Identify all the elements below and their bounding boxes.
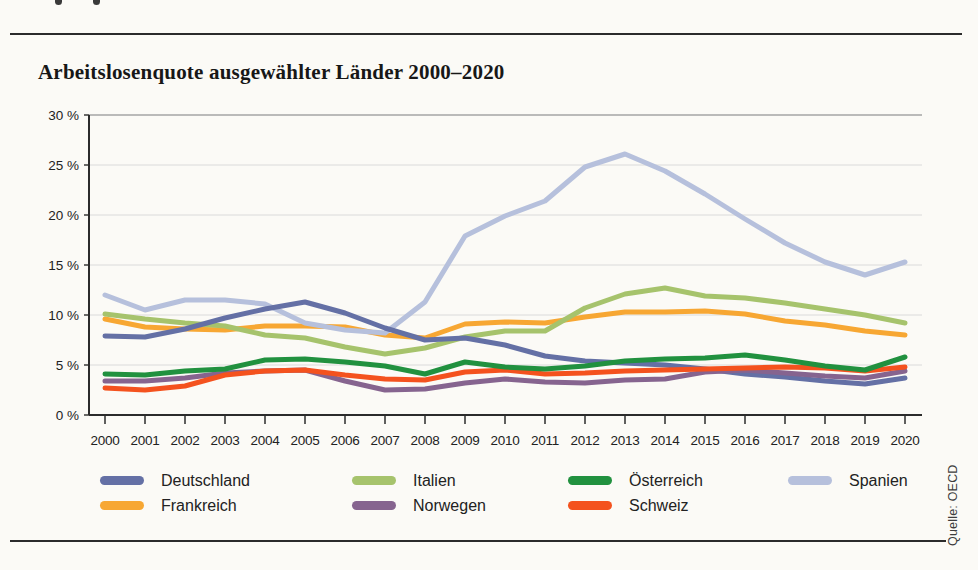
legend-item-norwegen: Norwegen [352,493,486,518]
legend-label: Frankreich [161,497,237,515]
legend-item-schweiz: Schweiz [568,493,703,518]
x-tick-label: 2001 [130,433,159,448]
x-tick-label: 2013 [610,433,639,448]
x-tick-label: 2003 [210,433,239,448]
legend-swatch [352,476,396,485]
x-tick-label: 2004 [250,433,280,448]
x-tick-label: 2011 [531,433,559,448]
y-tick-label: 20 % [48,208,79,223]
x-tick-label: 2014 [650,433,680,448]
chart-legend: DeutschlandFrankreichItalienNorwegenÖste… [0,468,978,532]
legend-item-italien: Italien [352,468,486,493]
legend-column: ÖsterreichSchweiz [568,468,703,518]
legend-label: Italien [413,472,456,490]
y-tick-label: 25 % [48,158,79,173]
x-tick-label: 2019 [850,433,879,448]
source-credit: Quelle: OECD [946,464,960,546]
x-tick-label: 2000 [90,433,119,448]
x-tick-label: 2002 [170,433,199,448]
legend-swatch [568,476,612,485]
legend-item-osterreich: Österreich [568,468,703,493]
y-tick-label: 5 % [56,358,79,373]
x-tick-label: 2016 [730,433,759,448]
x-tick-label: 2017 [770,433,799,448]
y-tick-label: 15 % [48,258,79,273]
legend-item-frankreich: Frankreich [100,493,250,518]
legend-swatch [568,501,612,510]
x-tick-label: 2007 [370,433,399,448]
legend-label: Spanien [849,472,908,490]
legend-swatch [100,476,144,485]
legend-swatch [788,476,832,485]
legend-column: Spanien [788,468,908,493]
x-tick-label: 2012 [570,433,599,448]
x-tick-label: 2008 [410,433,439,448]
legend-swatch [100,501,144,510]
legend-column: ItalienNorwegen [352,468,486,518]
x-tick-label: 2005 [290,433,319,448]
x-tick-label: 2010 [490,433,519,448]
legend-label: Österreich [629,472,703,490]
legend-swatch [352,501,396,510]
x-tick-label: 2006 [330,433,359,448]
legend-label: Norwegen [413,497,486,515]
legend-item-deutschland: Deutschland [100,468,250,493]
x-tick-label: 2015 [690,433,719,448]
y-tick-label: 30 % [48,108,79,123]
legend-column: DeutschlandFrankreich [100,468,250,518]
x-tick-label: 2018 [810,433,839,448]
legend-item-spanien: Spanien [788,468,908,493]
x-tick-label: 2009 [450,433,479,448]
legend-label: Deutschland [161,472,250,490]
figure-page: Arbeitslosenquote ausgewählter Länder 20… [0,0,978,570]
line-spanien [105,154,905,333]
x-tick-label: 2020 [890,433,919,448]
bottom-rule [10,540,946,542]
legend-label: Schweiz [629,497,689,515]
y-tick-label: 10 % [48,308,79,323]
y-tick-label: 0 % [56,408,79,423]
